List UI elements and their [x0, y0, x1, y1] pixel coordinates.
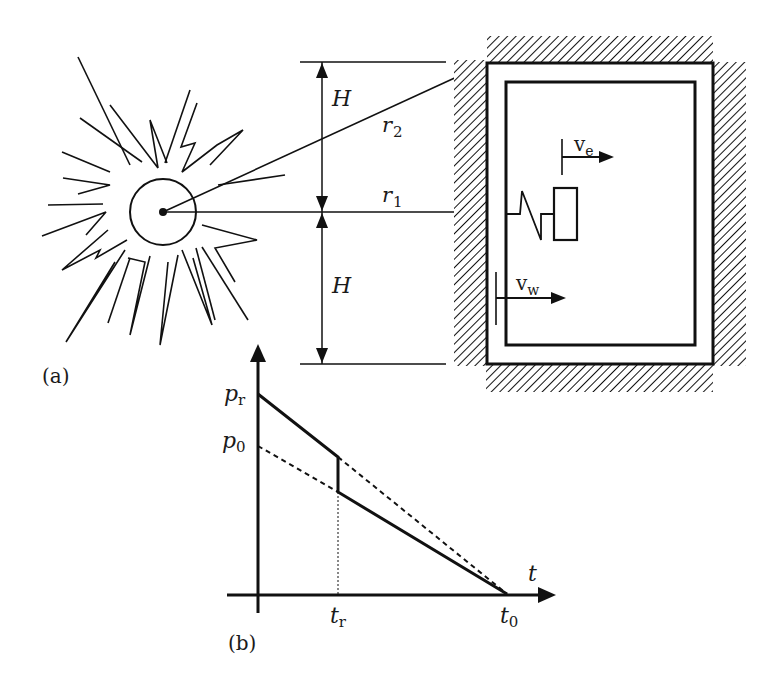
- x-label-tr: tr: [330, 603, 347, 631]
- panel-a: H H r2 r1 ve vw (a): [42, 36, 746, 392]
- reflected-extension-dashed-line: [338, 457, 507, 594]
- dim-label-lower: H: [331, 273, 352, 298]
- x-axis-label-t: t: [528, 561, 537, 586]
- panel-b-label: (b): [228, 631, 256, 655]
- x-axis-arrowhead-icon: [538, 587, 556, 603]
- explosion-burst-icon: [42, 57, 285, 345]
- y-label-pr: pr: [224, 381, 246, 409]
- free-field-dashed-line: [258, 446, 338, 492]
- y-axis-arrowhead-icon: [250, 344, 266, 362]
- x-label-t0: t0: [500, 603, 518, 631]
- ray-label-r1: r1: [382, 183, 403, 211]
- y-label-p0: p0: [222, 428, 246, 456]
- dim-label-upper: H: [331, 86, 352, 111]
- dim-arrow-bottom-icon: [316, 348, 328, 363]
- blast-loading-diagram: H H r2 r1 ve vw (a): [0, 0, 780, 695]
- ray-label-r2: r2: [382, 113, 403, 141]
- dim-arrow-mid-up-icon: [316, 196, 328, 211]
- panel-a-label: (a): [42, 364, 70, 388]
- mass-block: [554, 188, 577, 240]
- dim-arrow-top-icon: [316, 63, 328, 78]
- dim-arrow-mid-down-icon: [316, 213, 328, 228]
- ray-r2-line: [163, 70, 472, 212]
- structure-inner-wall: [506, 82, 695, 345]
